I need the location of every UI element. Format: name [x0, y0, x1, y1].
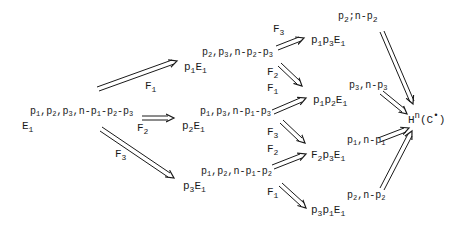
node-start: E1 p1,p2,p3,n-p1-p2-p3	[22, 121, 33, 134]
node-f2: p2E1 p1,p3,n-p1-p3	[182, 121, 205, 134]
label-start-f1: F1	[145, 80, 156, 94]
arrow-f2-f23	[280, 120, 305, 143]
label-f1-f12: F2	[267, 66, 278, 80]
node-f12: p1p2E1 p3,n-p3	[313, 95, 347, 108]
label-start-f3: F3	[115, 148, 126, 162]
node-f13-sup: p2;n-p2	[338, 12, 378, 24]
arrow-f12-target	[380, 91, 407, 114]
node-f3: p3E1 p1,p2,n-p1-p2	[183, 181, 206, 194]
node-f1: p1E1 p2,p3,n-p2-p3	[184, 62, 207, 75]
arrow-f1-f12	[278, 63, 302, 86]
arrow-f1-f13	[276, 37, 304, 50]
node-target: Hn(C•)	[408, 112, 445, 126]
label-f3-f23: F2	[267, 143, 278, 157]
label-f2-f12: F1	[267, 82, 278, 96]
arrow-f3-f31	[279, 183, 306, 208]
label-f2-f23: F3	[267, 126, 278, 140]
node-f23: F2p3E1 p1,n-p1	[311, 150, 345, 163]
node-f13: p1p3E1	[311, 35, 345, 48]
arrow-f2-f12	[272, 98, 306, 114]
arrow-start-f1	[97, 60, 177, 91]
arrow-start-f2	[142, 116, 174, 120]
node-f31: p3p1E1 p2,n-p2	[311, 205, 345, 218]
label-start-f2: F2	[137, 122, 148, 136]
label-f1-f13: F3	[273, 23, 284, 37]
label-f3-f31: F1	[267, 186, 278, 200]
